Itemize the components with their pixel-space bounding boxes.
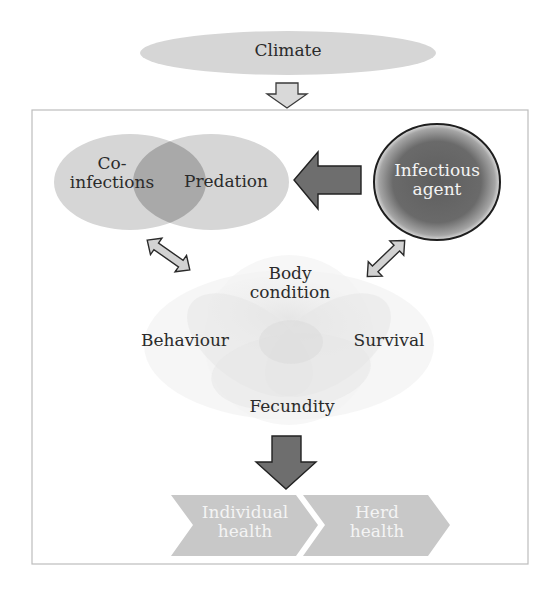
coinfections-label-line2: infections xyxy=(62,173,162,192)
predation-label: Predation xyxy=(176,172,276,191)
flower-to-health-arrow xyxy=(256,436,316,489)
body-condition-label-line2: condition xyxy=(240,283,340,302)
behaviour-label: Behaviour xyxy=(130,331,240,350)
infectious-agent-label-line1: Infectious xyxy=(387,161,487,180)
coinfections-label-line1: Co- xyxy=(62,154,162,173)
agent-to-predation-arrow xyxy=(294,152,361,209)
herd-health-label: Herd health xyxy=(327,503,427,541)
infectious-agent-label: Infectious agent xyxy=(387,161,487,199)
herd-health-label-line1: Herd xyxy=(327,503,427,522)
individual-health-label-line1: Individual xyxy=(190,503,300,522)
individual-health-label: Individual health xyxy=(190,503,300,541)
body-condition-label: Body condition xyxy=(240,264,340,302)
herd-health-label-line2: health xyxy=(327,522,427,541)
infectious-agent-label-line2: agent xyxy=(387,180,487,199)
climate-down-arrow xyxy=(267,83,307,108)
individual-health-label-line2: health xyxy=(190,522,300,541)
coinfections-label: Co- infections xyxy=(62,154,162,192)
survival-label: Survival xyxy=(344,331,434,350)
coinfections-flower-double-arrow xyxy=(141,232,195,278)
fecundity-label: Fecundity xyxy=(242,397,342,416)
agent-flower-double-arrow xyxy=(360,233,411,284)
climate-label: Climate xyxy=(238,41,338,60)
body-condition-label-line1: Body xyxy=(240,264,340,283)
